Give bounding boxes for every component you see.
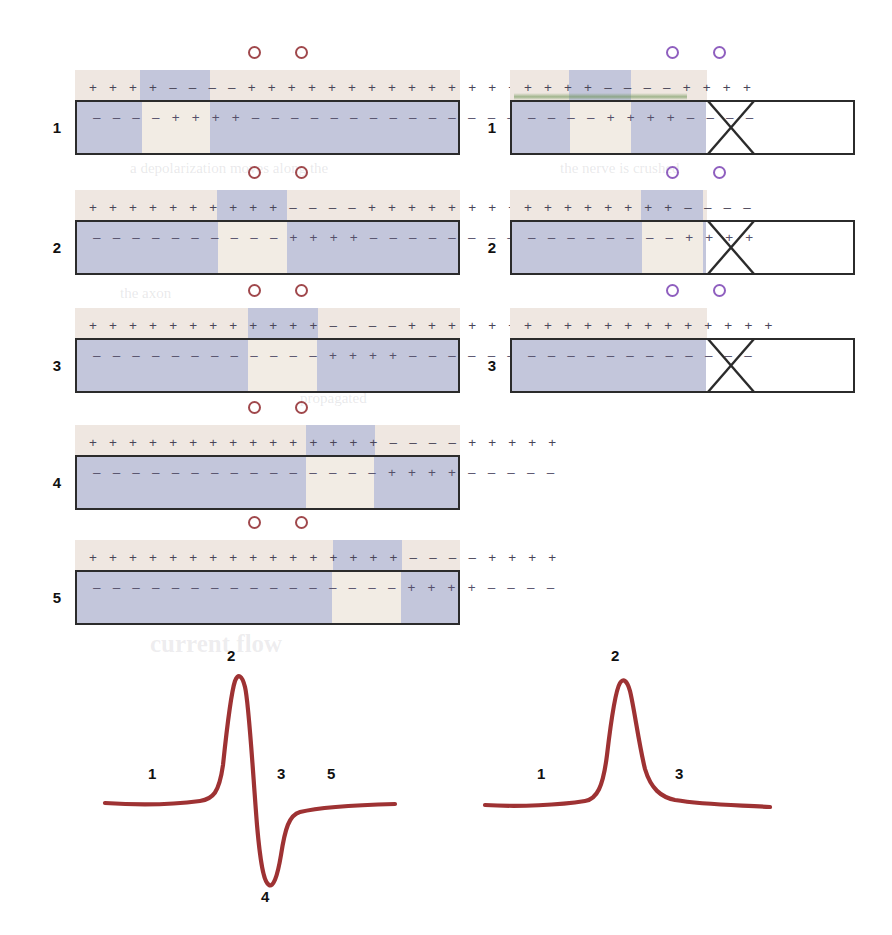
axon-body <box>75 338 460 393</box>
panel-number-label: 4 <box>47 474 67 491</box>
extracellular-fluid-strip <box>510 190 855 220</box>
axoplasm-fill <box>512 102 706 153</box>
axoplasm-fill <box>512 222 706 273</box>
axoplasm-fill <box>512 340 706 391</box>
axoplasm-fill <box>77 222 458 273</box>
axon-body <box>75 220 460 275</box>
extracellular-fluid-strip <box>75 308 460 338</box>
distal-recording-electrode-icon[interactable] <box>295 46 308 59</box>
panel-number-label: 2 <box>482 239 502 256</box>
extracellular-fluid-strip <box>75 190 460 220</box>
distal-recording-electrode-icon[interactable] <box>295 284 308 297</box>
axon-body <box>75 455 460 510</box>
panel-number-label: 3 <box>482 357 502 374</box>
trace-label-4: 4 <box>261 888 269 905</box>
trace-label-3: 3 <box>675 765 683 782</box>
monophasic-trace: 1 2 3 <box>475 655 805 855</box>
trace-label-1: 1 <box>537 765 545 782</box>
ghost-text: current flow <box>150 630 282 658</box>
axoplasm-fill <box>77 457 458 508</box>
trace-label-3: 3 <box>277 765 285 782</box>
ghost-text: the axon <box>120 285 171 302</box>
panel-number-label: 2 <box>47 239 67 256</box>
extracellular-fluid-strip <box>75 425 460 455</box>
trace-label-1: 1 <box>148 765 156 782</box>
proximal-recording-electrode-icon[interactable] <box>666 284 679 297</box>
distal-recording-electrode-over-crush-icon[interactable] <box>713 166 726 179</box>
distal-recording-electrode-over-crush-icon[interactable] <box>713 284 726 297</box>
axon-body <box>510 338 855 393</box>
proximal-recording-electrode-icon[interactable] <box>248 46 261 59</box>
panel-number-label: 3 <box>47 357 67 374</box>
crush-lesion-x-icon <box>707 100 755 155</box>
distal-recording-electrode-icon[interactable] <box>295 516 308 529</box>
proximal-recording-electrode-icon[interactable] <box>248 516 261 529</box>
extracellular-fluid-strip <box>510 308 855 338</box>
panel-number-label: 1 <box>47 119 67 136</box>
proximal-recording-electrode-icon[interactable] <box>666 46 679 59</box>
panel-number-label: 1 <box>482 119 502 136</box>
crush-lesion-x-icon <box>707 220 755 275</box>
figure-root: a depolarization moves along the the ner… <box>0 0 892 935</box>
proximal-recording-electrode-icon[interactable] <box>248 284 261 297</box>
crush-lesion-x-icon <box>707 338 755 393</box>
trace-label-5: 5 <box>327 765 335 782</box>
axoplasm-fill <box>77 102 458 153</box>
proximal-recording-electrode-icon[interactable] <box>248 401 261 414</box>
axoplasm-fill <box>77 572 458 623</box>
trace-label-2: 2 <box>227 647 235 664</box>
extracellular-fluid-strip <box>510 70 855 100</box>
distal-recording-electrode-icon[interactable] <box>295 166 308 179</box>
axon-body <box>510 100 855 155</box>
panel-number-label: 5 <box>47 589 67 606</box>
distal-recording-electrode-icon[interactable] <box>295 401 308 414</box>
proximal-recording-electrode-icon[interactable] <box>666 166 679 179</box>
proximal-recording-electrode-icon[interactable] <box>248 166 261 179</box>
extracellular-fluid-strip <box>75 540 460 570</box>
axon-body <box>510 220 855 275</box>
ghost-text: the nerve is crushed <box>560 160 680 177</box>
axon-body <box>75 570 460 625</box>
axoplasm-fill <box>77 340 458 391</box>
distal-recording-electrode-over-crush-icon[interactable] <box>713 46 726 59</box>
trace-label-2: 2 <box>611 647 619 664</box>
extracellular-fluid-strip <box>75 70 460 100</box>
axon-body <box>75 100 460 155</box>
biphasic-trace: 1 2 3 4 5 <box>95 655 425 915</box>
